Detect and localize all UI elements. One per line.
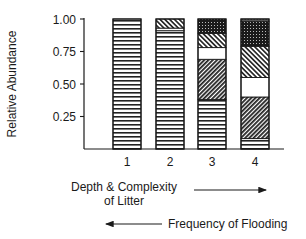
bars <box>113 19 269 149</box>
bar-2 <box>156 19 184 149</box>
bar-3 <box>198 19 226 149</box>
bar-1 <box>113 19 141 149</box>
bar-segment-dense-dots <box>198 19 226 33</box>
bar-segment-dense-diagonal-down <box>198 59 226 99</box>
x-axis-label-line1: Depth & Complexity <box>71 180 177 194</box>
bar-segment-horizontal-lines <box>241 139 269 149</box>
y-tick-label: 0.75 <box>53 45 77 59</box>
bar-segment-dense-dots <box>241 22 269 47</box>
y-ticks: 0.250.500.751.00 <box>53 13 84 125</box>
bar-segment-horizontal-lines <box>156 31 184 149</box>
x-tick-label: 2 <box>167 155 174 169</box>
bar-segment-dense-diagonal-down <box>241 97 269 139</box>
bar-segment-white <box>241 78 269 98</box>
bar-segment-white <box>198 48 226 60</box>
bar-4 <box>241 19 269 149</box>
x-axis-label-line2: of Litter <box>104 194 144 208</box>
y-tick-label: 1.00 <box>53 13 77 27</box>
x-tick-label: 3 <box>209 155 216 169</box>
y-axis-label: Relative Abundance <box>5 30 19 137</box>
bar-segment-diagonal-up <box>198 33 226 47</box>
bar-segment-horizontal-lines <box>113 19 141 149</box>
x-tick-label: 4 <box>252 155 259 169</box>
stacked-bar-chart: Relative Abundance 0.250.500.751.00 1234… <box>0 0 306 239</box>
y-tick-label: 0.50 <box>53 78 77 92</box>
x-ticks: 1234 <box>124 155 259 169</box>
x-tick-label: 1 <box>124 155 131 169</box>
y-tick-label: 0.25 <box>53 110 77 124</box>
flooding-label: Frequency of Flooding <box>168 217 287 231</box>
bar-segment-diagonal-up <box>241 46 269 77</box>
bar-segment-diagonal-up <box>156 19 184 28</box>
bar-segment-horizontal-lines <box>198 100 226 149</box>
